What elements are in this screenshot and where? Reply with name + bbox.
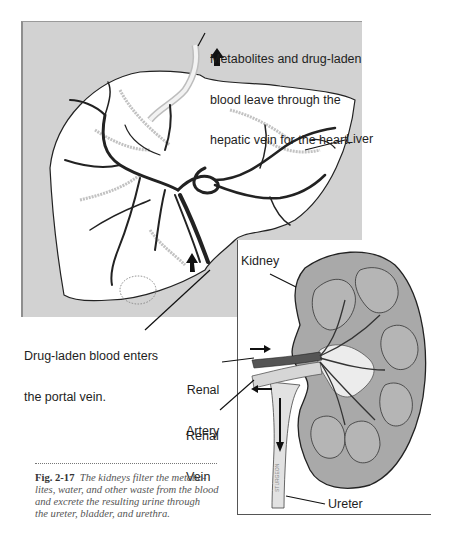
ureter-label: Ureter: [328, 498, 363, 512]
caption-divider: [35, 463, 217, 464]
artist-signature: STURGEON: [274, 463, 280, 492]
figure-caption: Fig. 2-17 The kidneys filter the metabo-…: [35, 472, 220, 520]
right-arrow-icon: [250, 345, 271, 353]
kidney-label: Kidney: [241, 255, 279, 269]
figure-number: Fig. 2-17: [35, 472, 74, 483]
